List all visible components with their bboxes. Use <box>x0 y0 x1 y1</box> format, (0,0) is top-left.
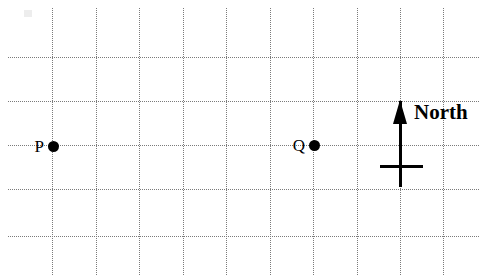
point-marker-p <box>48 141 59 152</box>
north-arrow-shaft <box>399 101 402 187</box>
grid-line-vertical-2 <box>139 8 140 275</box>
grid-line-vertical-7 <box>357 8 358 275</box>
point-marker-q <box>309 140 320 151</box>
point-label-q: Q <box>293 137 308 154</box>
north-label: North <box>414 102 468 123</box>
north-arrow-crossbar <box>380 165 423 168</box>
grid-line-horizontal-4 <box>8 236 479 237</box>
grid-line-vertical-5 <box>270 8 271 275</box>
scan-artifact <box>24 10 32 17</box>
grid-line-horizontal-3 <box>8 189 479 190</box>
grid-line-vertical-9 <box>443 8 444 275</box>
grid-line-vertical-1 <box>96 8 97 275</box>
survey-grid-figure: PQ North <box>0 0 491 277</box>
grid-line-vertical-4 <box>226 8 227 275</box>
grid-line-horizontal-0 <box>8 57 479 58</box>
grid-line-vertical-3 <box>183 8 184 275</box>
point-label-p: P <box>35 138 47 155</box>
